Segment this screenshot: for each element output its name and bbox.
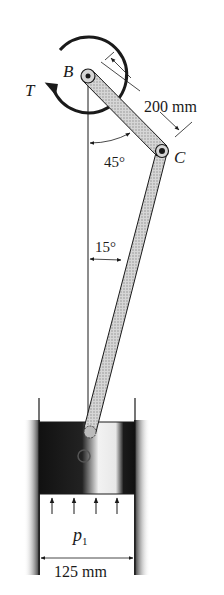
label-c: C xyxy=(174,148,186,167)
dim-arrow-b xyxy=(111,58,131,78)
label-b: B xyxy=(63,62,74,81)
angle-arc-45 xyxy=(90,133,130,143)
label-45deg: 45° xyxy=(104,154,125,170)
dim-extension-c xyxy=(175,122,192,137)
label-p1: p1 xyxy=(71,525,88,547)
piston-pin xyxy=(84,426,96,438)
angle-arc-15 xyxy=(90,259,121,260)
label-125mm: 125 mm xyxy=(54,563,107,580)
label-t: T xyxy=(25,81,36,100)
torque-arrowhead-icon xyxy=(45,78,62,97)
label-15deg: 15° xyxy=(95,239,116,255)
label-200mm: 200 mm xyxy=(144,98,197,115)
mechanism-diagram: B T C 200 mm 45° 15° p1 125 mm xyxy=(0,0,224,595)
link-cd xyxy=(84,149,167,432)
cylinder-wall-right-shade xyxy=(134,420,150,575)
pressure-arrows xyxy=(52,498,117,514)
cylinder-wall-left-shade xyxy=(24,420,40,575)
